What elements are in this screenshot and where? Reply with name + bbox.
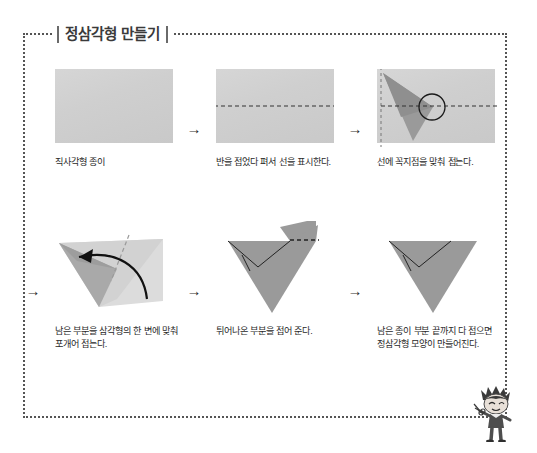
step-1-caption: 직사각형 종이 bbox=[55, 156, 183, 169]
step-2-figure bbox=[216, 69, 334, 147]
fold-remaining-diagram bbox=[55, 221, 181, 317]
step-6-figure bbox=[377, 221, 495, 317]
step-3-figure bbox=[377, 69, 495, 147]
arrow-right-icon: → bbox=[347, 121, 363, 137]
step-5: → 튀어나온 부분을 접어 준다. bbox=[184, 221, 345, 352]
arrow-right-icon: → bbox=[186, 121, 202, 137]
finished-triangle-diagram bbox=[377, 221, 503, 317]
step-6-caption: 남은 종이 부분 끝까지 다 접으면 정삼각형 모양이 만들어진다. bbox=[377, 325, 505, 352]
title-right-bar bbox=[166, 26, 168, 43]
step-5-figure bbox=[216, 221, 334, 317]
step-2: → 반을 접었다 펴서 선을 표시한다. bbox=[184, 69, 345, 169]
center-crease-dashed-line bbox=[216, 69, 334, 147]
step-5-caption: 튀어나온 부분을 접어 준다. bbox=[216, 325, 344, 338]
mascot-character bbox=[471, 384, 521, 442]
step-4-figure bbox=[55, 221, 173, 317]
step-3-caption: 선에 꼭지점을 맞춰 접는다. bbox=[377, 156, 505, 169]
title-left-bar bbox=[57, 26, 59, 43]
steps-row-top: 직사각형 종이 → 반을 접었다 펴서 선을 표시한다. → bbox=[23, 69, 507, 169]
step-2-caption: 반을 접었다 펴서 선을 표시한다. bbox=[216, 156, 344, 169]
step-4: → 남은 부분을 삼각형의 한 변에 맞춰 포개어 접는다. bbox=[23, 221, 184, 352]
step-4-caption: 남은 부분을 삼각형의 한 변에 맞춰 포개어 접는다. bbox=[55, 325, 183, 352]
triangle-with-flap-diagram bbox=[216, 221, 342, 317]
arrow-right-icon: → bbox=[347, 283, 363, 299]
folded-corner-diagram bbox=[377, 69, 503, 149]
arrow-right-icon: → bbox=[186, 283, 202, 299]
arrow-right-icon: → bbox=[25, 283, 41, 299]
page-title-label: 정삼각형 만들기 bbox=[65, 27, 160, 42]
step-3: → 선에 꼭지점을 맞춰 접는다. bbox=[345, 69, 506, 169]
step-1: 직사각형 종이 bbox=[23, 69, 184, 169]
rectangular-paper-shape bbox=[55, 69, 173, 143]
page-title: 정삼각형 만들기 bbox=[52, 23, 173, 45]
step-6: → 남은 종이 부분 끝까지 다 접으면 정삼각형 모양이 만들어진다. bbox=[345, 221, 506, 352]
steps-container: 직사각형 종이 → 반을 접었다 펴서 선을 표시한다. → bbox=[23, 33, 507, 418]
steps-row-bottom: → 남은 부분을 삼각형의 한 변에 맞춰 포개어 접는다. bbox=[23, 221, 507, 352]
step-1-figure bbox=[55, 69, 173, 147]
